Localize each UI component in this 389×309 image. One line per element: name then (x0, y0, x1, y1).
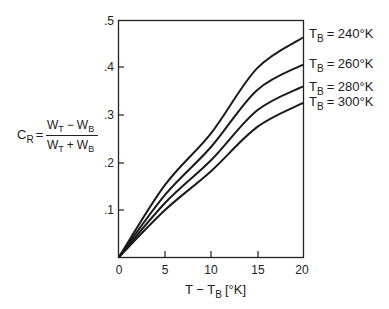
x-axis-label: T − TB[°K] (185, 282, 246, 300)
y-tick-label: .3 (104, 108, 114, 122)
legend-item-240: TB= 240°K (309, 26, 374, 44)
curve-3 (119, 103, 303, 257)
legend-item-260: TB= 260°K (309, 56, 374, 74)
chart: .1 .2 .3 .4 .5 0 5 10 15 20 T − TB[°K] C… (0, 0, 389, 309)
svg-text:CR=: CR= (17, 127, 43, 145)
legend: TB= 240°K TB= 260°K TB= 280°K TB= 300°K (309, 26, 374, 112)
y-tick-label: .1 (104, 203, 114, 217)
x-tick-label: 10 (204, 263, 218, 277)
y-axis-tick-labels: .1 .2 .3 .4 .5 (104, 14, 114, 217)
y-tick-label: .5 (104, 14, 114, 28)
x-tick-label: 15 (251, 263, 265, 277)
y-axis-label: CR= WT−WB WT+WB (17, 118, 98, 154)
y-tick-label: .2 (104, 156, 114, 170)
y-tick-label: .4 (104, 60, 114, 74)
plot-frame (119, 21, 304, 258)
svg-text:WT+WB: WT+WB (47, 138, 94, 154)
x-tick-label: 20 (295, 263, 309, 277)
x-axis-ticks (165, 251, 258, 257)
x-tick-label: 5 (162, 263, 169, 277)
x-axis-tick-labels: 0 5 10 15 20 (116, 263, 309, 277)
x-tick-label: 0 (116, 263, 123, 277)
svg-text:WT−WB: WT−WB (47, 118, 94, 134)
data-series (119, 38, 303, 257)
